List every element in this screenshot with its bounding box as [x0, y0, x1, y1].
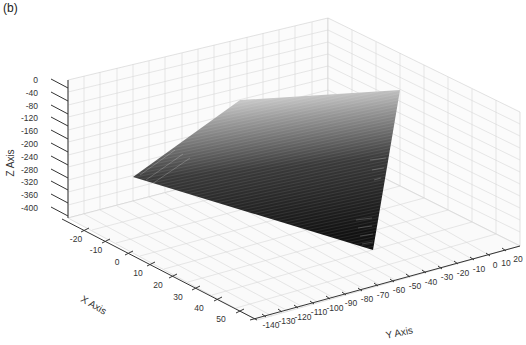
svg-text:-40: -40: [425, 277, 438, 287]
svg-text:-10: -10: [473, 264, 486, 274]
svg-text:0: 0: [33, 75, 38, 85]
svg-text:10: 10: [133, 268, 143, 278]
svg-text:-70: -70: [377, 290, 390, 300]
svg-text:-30: -30: [441, 272, 454, 282]
svg-text:-80: -80: [361, 294, 374, 304]
svg-text:30: 30: [173, 292, 183, 302]
svg-text:-90: -90: [345, 298, 358, 308]
z-axis-title: Z Axis: [5, 149, 16, 176]
svg-text:-80: -80: [26, 101, 39, 111]
svg-text:-240: -240: [21, 152, 38, 162]
svg-text:20: 20: [153, 280, 163, 290]
z-tick-labels: 0 -40 -80 -120 -160 -200 -240 -280 -320 …: [21, 75, 38, 213]
svg-text:-200: -200: [21, 139, 38, 149]
svg-text:-100: -100: [326, 303, 343, 313]
x-axis-title: X Axis: [79, 293, 109, 316]
svg-text:0: 0: [493, 260, 498, 270]
svg-text:-120: -120: [21, 113, 38, 123]
surface-plot-3d: 0 -40 -80 -120 -160 -200 -240 -280 -320 …: [0, 0, 526, 345]
svg-text:-20: -20: [457, 268, 470, 278]
svg-text:40: 40: [194, 303, 204, 313]
svg-text:-130: -130: [278, 316, 295, 326]
svg-text:-20: -20: [70, 234, 83, 244]
svg-text:50: 50: [216, 314, 226, 324]
svg-text:-50: -50: [409, 281, 422, 291]
svg-text:-140: -140: [262, 320, 279, 330]
svg-text:-360: -360: [21, 190, 38, 200]
svg-text:0: 0: [115, 257, 120, 267]
svg-text:-40: -40: [26, 88, 39, 98]
svg-text:-110: -110: [311, 307, 328, 317]
svg-text:-60: -60: [393, 285, 406, 295]
svg-text:-320: -320: [21, 177, 38, 187]
svg-text:-10: -10: [90, 245, 103, 255]
svg-text:20: 20: [513, 254, 523, 264]
z-axis: [51, 79, 68, 218]
svg-text:10: 10: [501, 258, 511, 268]
svg-text:-160: -160: [21, 126, 38, 136]
svg-text:-120: -120: [294, 312, 311, 322]
svg-text:-400: -400: [21, 203, 38, 213]
svg-text:-280: -280: [21, 165, 38, 175]
y-axis-title: Y Axis: [385, 324, 414, 340]
